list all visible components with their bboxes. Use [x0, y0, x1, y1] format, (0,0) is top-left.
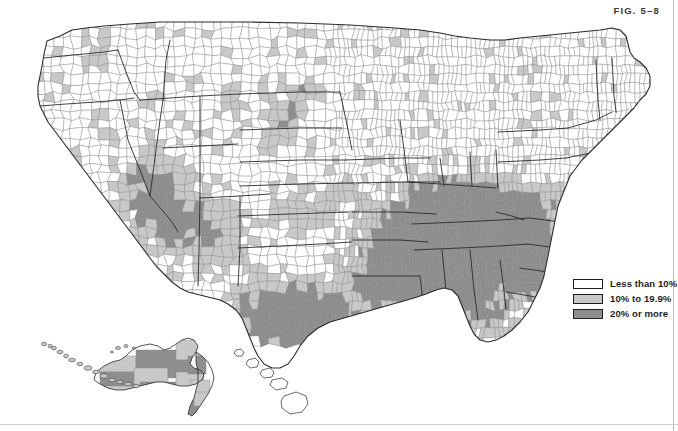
hawaii-island-1	[234, 349, 244, 356]
choropleth-map	[0, 0, 678, 431]
legend-swatch-20-or-more	[573, 309, 603, 319]
legend-label-20-or-more: 20% or more	[610, 308, 668, 319]
legend-label-10-to-19-9: 10% to 19.9%	[610, 293, 671, 304]
map-legend: Less than 10% 10% to 19.9% 20% or more	[573, 277, 673, 322]
hawaii-island-2	[246, 358, 259, 368]
us-county-choropleth-svg	[0, 0, 678, 431]
legend-swatch-less-than-10	[573, 279, 603, 289]
hawaii-island-4	[270, 378, 288, 390]
figure-page: FIG. 5–8 Less than 10% 10% to 19.9% 20% …	[0, 0, 678, 431]
legend-item-mid: 10% to 19.9%	[573, 292, 673, 305]
legend-item-high: 20% or more	[573, 307, 673, 320]
legend-item-low: Less than 10%	[573, 277, 673, 290]
legend-label-less-than-10: Less than 10%	[610, 278, 677, 289]
legend-swatch-10-to-19-9	[573, 294, 603, 304]
hawaii-island-3	[260, 368, 274, 378]
hawaii-island-5	[281, 392, 308, 414]
